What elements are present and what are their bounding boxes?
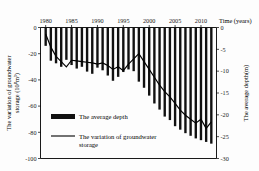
bar-1997	[132, 28, 134, 72]
chart-legend: The average depth The variation of groun…	[51, 113, 157, 148]
y-axis-right-ticks: 0-5-10-15-20-25-30	[217, 24, 229, 162]
x-tick-label-2010: 2010	[195, 17, 207, 24]
x-tick-label-1980: 1980	[39, 17, 51, 24]
bar-2003	[164, 28, 166, 117]
x-tick-label-2005: 2005	[169, 17, 181, 24]
bar-1993	[112, 28, 114, 81]
y-tick-label--60: -60	[28, 102, 36, 109]
legend-label-average-depth: The average depth	[79, 113, 128, 120]
bar-1999	[143, 28, 145, 88]
bar-2002	[158, 28, 160, 110]
bar-2001	[153, 28, 155, 104]
x-tick-label-2000: 2000	[143, 17, 155, 24]
bar-1994	[117, 28, 119, 77]
x-axis-ticks: 1980198519901995200020052010	[39, 17, 207, 28]
y2-tick-label--5: -5	[221, 46, 226, 53]
bar-2005	[174, 28, 176, 127]
bar-1988	[86, 28, 88, 72]
bar-series-average-depth	[44, 28, 212, 144]
bar-1992	[107, 28, 109, 76]
bar-2007	[184, 28, 186, 134]
bar-2009	[195, 28, 197, 139]
y-tick-label--20: -20	[28, 50, 36, 57]
bar-1986	[76, 28, 78, 69]
y-tick-label--40: -40	[28, 76, 36, 83]
y2-tick-label--10: -10	[221, 67, 229, 74]
y2-tick-label--30: -30	[221, 155, 229, 162]
bar-2012	[210, 28, 212, 144]
y-axis-right-title: The average depth(m)	[242, 65, 250, 121]
bar-1995	[122, 28, 124, 73]
bar-1989	[91, 28, 93, 74]
x-tick-label-1985: 1985	[65, 17, 77, 24]
y-axis-left-ticks: 0-20-40-60-80-100	[25, 24, 40, 162]
x-tick-label-1995: 1995	[117, 17, 129, 24]
y-tick-label--80: -80	[28, 129, 36, 136]
bar-2006	[179, 28, 181, 130]
bar-2010	[200, 28, 202, 141]
bar-2004	[169, 28, 171, 121]
legend-label-groundwater-storage-line1: The variation of groundwater	[79, 133, 157, 140]
x-tick-label-1990: 1990	[91, 17, 103, 24]
y-axis-left-title-line2: storage (10⁸m³)	[13, 73, 21, 113]
y2-tick-label--25: -25	[221, 133, 229, 140]
y2-tick-label--20: -20	[221, 111, 229, 118]
y-axis-left-title-line1: The variation of groundwater	[5, 55, 12, 131]
y-tick-label--100: -100	[25, 155, 36, 162]
y2-tick-label-0: 0	[221, 24, 224, 31]
x-axis-title: Time (years)	[219, 17, 252, 25]
y-tick-label-0: 0	[33, 24, 36, 31]
y2-tick-label--15: -15	[221, 89, 229, 96]
bar-2011	[205, 28, 207, 142]
chart-figure: 1980198519901995200020052010 0-20-40-60-…	[0, 0, 259, 171]
bar-1984	[65, 28, 67, 60]
bar-1990	[96, 28, 98, 68]
bar-1985	[70, 28, 72, 66]
bar-2000	[148, 28, 150, 96]
groundwater-chart: 1980198519901995200020052010 0-20-40-60-…	[0, 0, 259, 171]
legend-swatch-average-depth	[51, 114, 75, 119]
legend-label-groundwater-storage-line2: storage	[79, 141, 98, 148]
